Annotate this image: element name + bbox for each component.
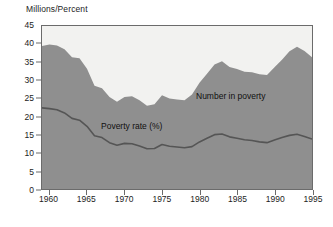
y-axis-tick-label: 5 bbox=[6, 167, 34, 177]
x-axis-tick-label: 1980 bbox=[190, 194, 209, 204]
y-axis-tick-label: 10 bbox=[6, 148, 34, 158]
x-axis-tick-label: 1990 bbox=[266, 194, 285, 204]
x-axis-tick-label: 1985 bbox=[228, 194, 247, 204]
y-axis-title: Millions/Percent bbox=[26, 4, 88, 14]
poverty-chart: Millions/Percent 051015202530354045 1960… bbox=[0, 0, 333, 227]
y-axis-tick-label: 45 bbox=[6, 20, 34, 30]
area-series-number-in-poverty bbox=[42, 44, 312, 189]
y-axis-tick-label: 30 bbox=[6, 75, 34, 85]
x-axis-tick-label: 1960 bbox=[39, 194, 58, 204]
y-axis-tick-label: 40 bbox=[6, 38, 34, 48]
y-axis-tick-label: 15 bbox=[6, 130, 34, 140]
series-label-number-in-poverty: Number in poverty bbox=[196, 91, 265, 101]
x-axis-tick-label: 1965 bbox=[77, 194, 96, 204]
plot-svg bbox=[42, 26, 312, 189]
x-axis-tick-label: 1995 bbox=[304, 194, 323, 204]
x-axis-tick-label: 1975 bbox=[152, 194, 171, 204]
plot-area bbox=[41, 25, 313, 190]
y-axis-tick-label: 20 bbox=[6, 112, 34, 122]
y-axis-tick-label: 25 bbox=[6, 93, 34, 103]
series-label-poverty-rate: Poverty rate (%) bbox=[101, 121, 162, 131]
y-axis-tick-label: 35 bbox=[6, 57, 34, 67]
x-axis-tick-label: 1970 bbox=[115, 194, 134, 204]
y-axis-tick-label: 0 bbox=[6, 185, 34, 195]
